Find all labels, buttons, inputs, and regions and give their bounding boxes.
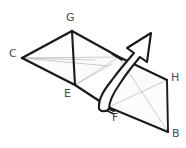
- vertex-label-E: E: [64, 88, 71, 99]
- figure-canvas: G C H E F B: [0, 0, 186, 148]
- vertex-label-H: H: [171, 72, 179, 83]
- face-left-bottom: [22, 57, 119, 85]
- geometry-diagram: [0, 0, 186, 148]
- vertex-label-F: F: [112, 112, 118, 123]
- vertex-label-B: B: [172, 128, 180, 139]
- vertex-label-G: G: [66, 12, 75, 23]
- edge-H-B: [167, 80, 168, 132]
- face-left-top: [22, 31, 119, 58]
- vertex-label-C: C: [9, 48, 17, 59]
